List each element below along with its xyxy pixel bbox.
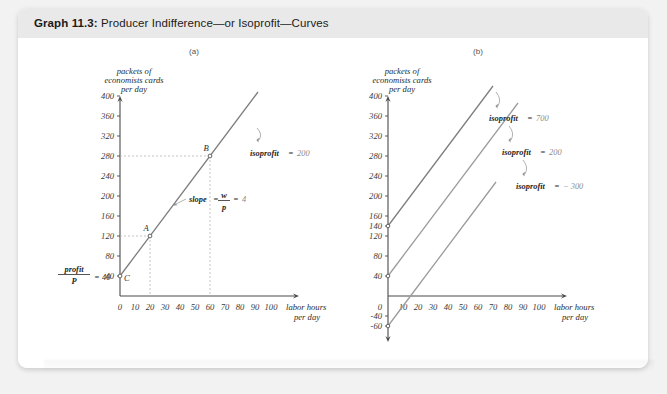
panel-b-curve-value-700: 700 bbox=[536, 114, 549, 123]
panel-b-ytick-200: 200 bbox=[369, 191, 383, 201]
panel-b-ytick-160: 160 bbox=[369, 211, 383, 221]
panel-a-point-a-label: A bbox=[142, 223, 149, 233]
panel-a: (a) packets of economists cards per day … bbox=[58, 47, 327, 322]
panel-a-slope-word: slope bbox=[188, 195, 207, 204]
panel-a-ytick-160: 160 bbox=[101, 211, 115, 221]
panel-b-x-ticks: 10 20 30 40 50 60 70 80 90 100 bbox=[399, 302, 546, 312]
panel-b-curve-value-200: 200 bbox=[549, 148, 562, 157]
panel-a-slope-numerator: w bbox=[221, 191, 227, 200]
panel-b-curve-value-neg300: − 300 bbox=[563, 182, 584, 191]
panel-b-ytick-400: 400 bbox=[369, 91, 383, 101]
panel-b-xtick-20: 20 bbox=[414, 302, 423, 312]
panel-a-x-ticks: 0 10 20 30 40 50 60 70 80 90 100 bbox=[118, 302, 278, 312]
panel-a-xtick-90: 90 bbox=[251, 302, 260, 312]
panel-a-slope-annotation: slope = w p = 4 bbox=[173, 191, 246, 212]
panel-a-slope-denominator: p bbox=[221, 203, 226, 212]
panel-a-xtick-80: 80 bbox=[236, 302, 245, 312]
panel-a-xlabel-line1: labor hours bbox=[286, 302, 327, 312]
panel-b: (b) packets of economists cards per day … bbox=[368, 47, 595, 342]
panel-b-tag: (b) bbox=[473, 47, 483, 56]
panel-b-ytick-120: 120 bbox=[369, 231, 383, 241]
panel-b-y-ticks: 400 360 320 280 240 200 160 bbox=[368, 91, 388, 331]
panel-b-leader-arrow-neg300 bbox=[522, 172, 525, 177]
page-background: Graph 11.3: Producer Indifference—or Iso… bbox=[0, 0, 667, 394]
panel-a-ytick-200: 200 bbox=[101, 191, 115, 201]
panel-b-ytick-360: 360 bbox=[368, 111, 383, 121]
panel-a-xlabel-line2: per day bbox=[293, 312, 320, 322]
panel-a-point-b-marker bbox=[208, 154, 212, 158]
panel-a-ytick-280: 280 bbox=[101, 151, 115, 161]
panel-b-intercept-marker-neg300 bbox=[386, 324, 390, 328]
panel-a-curve-equals: = bbox=[288, 149, 294, 158]
panel-b-xtick-80: 80 bbox=[504, 302, 513, 312]
figure-title-bar: Graph 11.3: Producer Indifference—or Iso… bbox=[18, 8, 648, 38]
panel-b-ytick-140: 140 bbox=[369, 221, 383, 231]
panel-b-ytick-neg60: -60 bbox=[371, 321, 383, 331]
panel-a-ytick-360: 360 bbox=[100, 111, 115, 121]
panel-a-xtick-40: 40 bbox=[176, 302, 185, 312]
panel-b-curve-equals-200: = bbox=[540, 148, 546, 157]
panel-b-ytick-240: 240 bbox=[369, 171, 383, 181]
panel-a-xtick-50: 50 bbox=[191, 302, 200, 312]
figure-card: Graph 11.3: Producer Indifference—or Iso… bbox=[18, 8, 648, 368]
panel-a-isoprofit-curve bbox=[120, 92, 258, 276]
figure-caption: Producer Indifference—or Isoprofit—Curve… bbox=[101, 17, 329, 29]
panel-a-ytick-120: 120 bbox=[101, 231, 115, 241]
panel-b-curve-equals-700: = bbox=[527, 114, 533, 123]
panel-a-point-c-marker bbox=[118, 274, 122, 278]
panel-a-ytick-80: 80 bbox=[105, 251, 114, 261]
page-bottom-shadow bbox=[44, 360, 654, 372]
panel-b-annotation-neg300: isoprofit = − 300 bbox=[516, 160, 584, 191]
panel-b-xtick-50: 50 bbox=[459, 302, 468, 312]
panel-b-isoprofit-curve-200 bbox=[388, 103, 518, 276]
figure-plot-area: (a) packets of economists cards per day … bbox=[18, 38, 648, 368]
panel-b-leader-200 bbox=[509, 126, 513, 140]
panel-a-xtick-20: 20 bbox=[146, 302, 155, 312]
panel-a-tag: (a) bbox=[189, 47, 199, 56]
panel-a-curve-annotation: isoprofit = 200 bbox=[250, 128, 310, 158]
panel-a-xtick-60: 60 bbox=[206, 302, 215, 312]
panel-b-xtick-60: 60 bbox=[474, 302, 483, 312]
panel-b-curve-name-neg300: isoprofit bbox=[516, 182, 546, 191]
panel-b-annotation-700: isoprofit = 700 bbox=[489, 92, 549, 123]
panel-a-curve-value: 200 bbox=[297, 149, 310, 158]
panel-a-intercept-equals: = bbox=[94, 273, 100, 282]
panel-b-xlabel-line1: labor hours bbox=[554, 302, 595, 312]
panel-b-ytick-40: 40 bbox=[373, 271, 382, 281]
panel-a-slope-equals-2: = bbox=[233, 195, 239, 204]
panel-b-ylabel-line3: per day bbox=[388, 84, 415, 94]
panel-a-intercept-annotation: profit P = 40 bbox=[58, 265, 111, 286]
panel-a-ytick-240: 240 bbox=[101, 171, 115, 181]
panel-b-xtick-100: 100 bbox=[533, 302, 547, 312]
panel-b-isoprofit-curve-700 bbox=[388, 86, 493, 226]
panel-a-curve-name: isoprofit bbox=[250, 149, 280, 158]
panel-b-xtick-40: 40 bbox=[444, 302, 453, 312]
panel-b-xtick-30: 30 bbox=[428, 302, 438, 312]
panel-a-ylabel-line3: per day bbox=[120, 84, 147, 94]
panel-b-leader-neg300 bbox=[523, 160, 527, 174]
panel-b-intercept-marker-700 bbox=[386, 224, 390, 228]
panel-b-curve-equals-neg300: = bbox=[554, 182, 560, 191]
panel-b-xtick-70: 70 bbox=[489, 302, 498, 312]
panel-b-annotation-200: isoprofit = 200 bbox=[502, 126, 562, 157]
panel-b-leader-arrow-700 bbox=[495, 104, 498, 109]
panel-b-leader-700 bbox=[496, 92, 500, 106]
panel-a-xtick-70: 70 bbox=[221, 302, 230, 312]
panel-b-curve-name-700: isoprofit bbox=[489, 114, 519, 123]
panel-a-y-ticks: 400 360 320 280 240 200 160 bbox=[100, 91, 120, 281]
page-title: Graph 11.3: Producer Indifference—or Iso… bbox=[18, 17, 329, 29]
panel-b-leader-arrow-200 bbox=[508, 138, 511, 143]
panel-a-intercept-value: 40 bbox=[102, 273, 111, 282]
figure-number: Graph 11.3: bbox=[34, 17, 98, 29]
panel-a-xtick-0: 0 bbox=[118, 302, 123, 312]
panel-b-ytick-320: 320 bbox=[368, 131, 383, 141]
figure-svg: (a) packets of economists cards per day … bbox=[18, 38, 648, 368]
panel-a-xtick-10: 10 bbox=[131, 302, 140, 312]
panel-a-point-c-label: C bbox=[124, 273, 130, 283]
panel-b-curve-name-200: isoprofit bbox=[502, 148, 532, 157]
panel-a-ytick-320: 320 bbox=[100, 131, 115, 141]
panel-a-curve-leader-arrow bbox=[256, 138, 259, 143]
panel-a-slope-equals-1: = bbox=[213, 195, 219, 204]
panel-b-xtick-90: 90 bbox=[519, 302, 528, 312]
panel-b-ytick-280: 280 bbox=[369, 151, 383, 161]
